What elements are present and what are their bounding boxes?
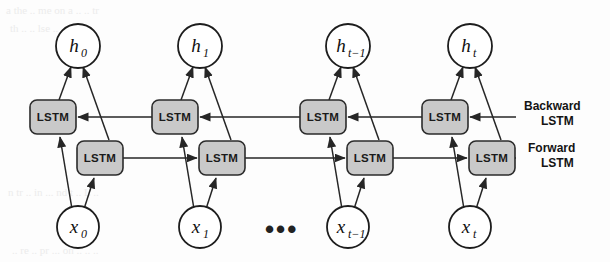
input-node-3[interactable]: xt — [449, 206, 491, 248]
input-to-backward-edge — [182, 137, 194, 209]
forward-to-output-edge — [83, 67, 109, 140]
input-node-base-label: x — [336, 216, 346, 237]
output-node-base-label: h — [191, 35, 201, 56]
forward-to-output-edge — [353, 67, 379, 140]
lstm-cell-label: LSTM — [159, 111, 192, 123]
output-node-subscript-label: t−1 — [348, 46, 365, 60]
input-node-0[interactable]: x0 — [57, 206, 99, 248]
backward-to-output-edge — [329, 67, 341, 100]
input-to-backward-edge — [60, 137, 72, 209]
output-node-base-label: h — [69, 35, 79, 56]
input-node-2[interactable]: xt−1 — [327, 206, 369, 248]
backward-to-output-edge — [181, 67, 193, 100]
input-node-subscript-label: 0 — [81, 227, 87, 241]
lstm-cell-forward-2[interactable]: LSTM — [347, 141, 393, 175]
input-to-forward-edge — [354, 178, 364, 209]
lstm-cell-backward-3[interactable]: LSTM — [422, 100, 468, 134]
lstm-cell-label: LSTM — [84, 152, 117, 164]
input-to-backward-edge — [452, 137, 464, 209]
output-node-base-label: h — [461, 35, 471, 56]
ellipsis-label: ••• — [265, 214, 298, 244]
input-to-forward-edge — [84, 178, 94, 209]
lstm-cell-label: LSTM — [206, 152, 239, 164]
input-node-base-label: x — [69, 216, 79, 237]
forward-to-output-edge — [205, 67, 231, 140]
input-node-subscript-label: 1 — [203, 227, 209, 241]
input-node-1[interactable]: x1 — [179, 206, 221, 248]
input-to-backward-edge — [330, 137, 342, 209]
input-node-subscript-label: t−1 — [348, 227, 365, 241]
lstm-cell-label: LSTM — [37, 111, 70, 123]
lstm-cell-label: LSTM — [307, 111, 340, 123]
lstm-cell-backward-2[interactable]: LSTM — [300, 100, 346, 134]
lstm-cell-label: LSTM — [476, 152, 509, 164]
lstm-cell-backward-1[interactable]: LSTM — [152, 100, 198, 134]
lstm-cell-forward-0[interactable]: LSTM — [77, 141, 123, 175]
backward-lstm-label-line2: LSTM — [541, 114, 574, 128]
input-node-base-label: x — [191, 216, 201, 237]
lstm-cell-forward-1[interactable]: LSTM — [199, 141, 245, 175]
input-to-forward-edge — [476, 178, 486, 209]
backward-to-output-edge — [59, 67, 71, 100]
lstm-cell-label: LSTM — [354, 152, 387, 164]
edges-layer — [59, 67, 516, 209]
output-node-subscript-label: 1 — [203, 46, 209, 60]
forward-to-output-edge — [475, 67, 501, 140]
bilstm-svg: LSTMLSTMLSTMLSTMLSTMLSTMLSTMLSTM h0x0h1x… — [0, 0, 610, 262]
input-node-base-label: x — [461, 216, 471, 237]
output-node-0[interactable]: h0 — [56, 24, 100, 68]
forward-lstm-label-line1: Forward — [528, 141, 575, 155]
output-node-1[interactable]: h1 — [178, 24, 222, 68]
lstm-cell-backward-0[interactable]: LSTM — [30, 100, 76, 134]
diagram-canvas: a the .. me on a .. .. tr th .. .. lse .… — [0, 0, 610, 262]
output-node-3[interactable]: ht — [448, 24, 492, 68]
forward-lstm-label-line2: LSTM — [541, 156, 574, 170]
backward-to-output-edge — [451, 67, 463, 100]
lstm-cell-label: LSTM — [429, 111, 462, 123]
output-node-subscript-label: 0 — [81, 46, 87, 60]
output-node-2[interactable]: ht−1 — [326, 24, 370, 68]
lstm-cell-forward-3[interactable]: LSTM — [469, 141, 515, 175]
output-node-base-label: h — [336, 35, 346, 56]
backward-lstm-label-line1: Backward — [524, 99, 581, 113]
input-to-forward-edge — [206, 178, 216, 209]
lstm-cells-layer: LSTMLSTMLSTMLSTMLSTMLSTMLSTMLSTM — [30, 100, 515, 175]
